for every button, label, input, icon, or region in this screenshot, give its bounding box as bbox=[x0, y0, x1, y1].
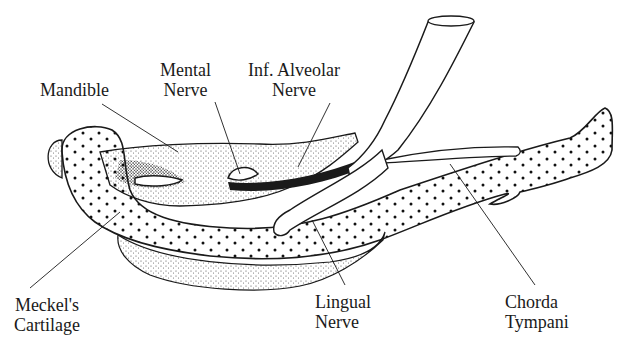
label-lingual-nerve: Lingual Nerve bbox=[315, 292, 371, 332]
nerve-cut-end bbox=[428, 16, 474, 26]
cartilage-knob bbox=[48, 140, 62, 178]
anatomy-figure: Mandible Mental Nerve Inf. Alveolar Nerv… bbox=[0, 0, 640, 361]
label-mental-nerve: Mental Nerve bbox=[160, 60, 211, 100]
label-inf-alveolar-nerve: Inf. Alveolar Nerve bbox=[248, 60, 340, 100]
label-meckels-cartilage: Meckel's Cartilage bbox=[14, 295, 80, 335]
label-chorda-tympani: Chorda Tympani bbox=[505, 292, 569, 332]
label-mandible: Mandible bbox=[40, 80, 109, 100]
